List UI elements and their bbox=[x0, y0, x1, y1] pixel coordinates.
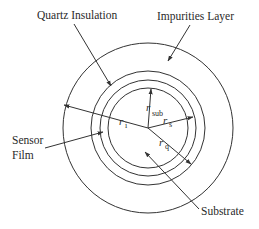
svg-text:r: r bbox=[119, 115, 124, 127]
quartz-insulation-label: Quartz Insulation bbox=[37, 9, 117, 21]
quartz-callout-arrow bbox=[74, 24, 111, 86]
svg-text:r: r bbox=[159, 136, 164, 148]
r-q-arrow bbox=[148, 128, 191, 164]
r-i-symbol: r i bbox=[119, 115, 128, 130]
impurities-layer-label: Impurities Layer bbox=[157, 10, 234, 23]
sensor-film-label-line2: Film bbox=[12, 149, 34, 161]
r-s-symbol: r s bbox=[163, 114, 172, 129]
svg-text:sub: sub bbox=[152, 109, 163, 118]
impurities-callout-arrow bbox=[168, 25, 190, 61]
svg-text:r: r bbox=[146, 101, 151, 113]
r-i-arrow bbox=[64, 105, 148, 128]
r-q-symbol: r q bbox=[159, 136, 169, 151]
substrate-label: Substrate bbox=[201, 205, 244, 217]
concentric-layer-diagram: Quartz Insulation Impurities Layer Senso… bbox=[0, 0, 259, 229]
svg-text:s: s bbox=[169, 120, 172, 129]
svg-text:r: r bbox=[163, 114, 168, 126]
svg-text:q: q bbox=[165, 142, 169, 151]
sensor-film-label-line1: Sensor bbox=[12, 134, 43, 146]
